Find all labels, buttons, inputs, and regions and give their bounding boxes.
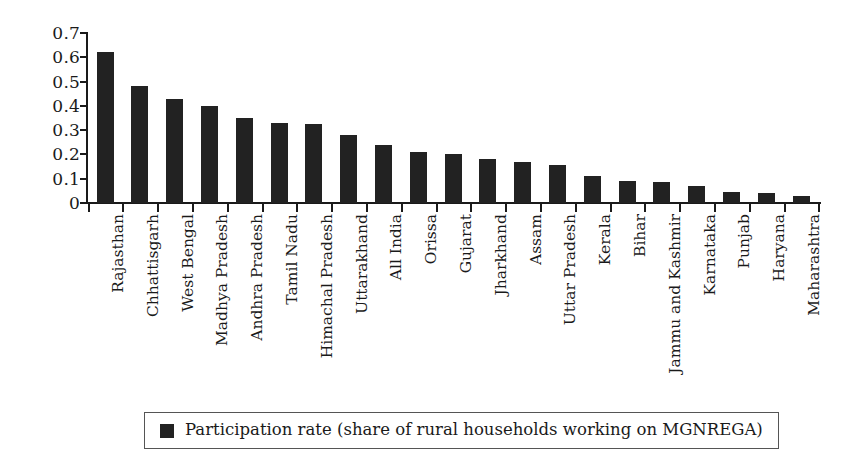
- x-tick-mark: [227, 204, 229, 212]
- x-axis-label: All India: [389, 214, 405, 280]
- bar: [549, 165, 566, 203]
- x-axis-label: Andhra Pradesh: [250, 214, 266, 341]
- bar: [410, 152, 427, 203]
- bar: [201, 106, 218, 203]
- y-tick-mark: [80, 129, 87, 131]
- y-tick-label: 0.2: [52, 146, 80, 163]
- x-axis-label: Bihar: [633, 214, 649, 257]
- y-tick-mark: [80, 105, 87, 107]
- x-axis-label: Chhattisgarh: [146, 214, 162, 317]
- x-axis-label-text: Gujarat: [459, 214, 475, 273]
- x-axis-label: Madhya Pradesh: [215, 214, 231, 346]
- x-tick-mark: [436, 204, 438, 212]
- x-tick-mark: [88, 204, 90, 212]
- x-axis-label-text: Karnataka: [703, 214, 719, 296]
- bar: [445, 154, 462, 203]
- x-axis-label-text: Kerala: [598, 214, 614, 265]
- bar: [514, 162, 531, 203]
- y-tick-mark: [80, 153, 87, 155]
- x-tick-mark: [331, 204, 333, 212]
- bar: [688, 186, 705, 203]
- x-tick-mark: [714, 204, 716, 212]
- x-tick-mark: [575, 204, 577, 212]
- x-axis-label-text: Uttar Pradesh: [563, 214, 579, 325]
- x-axis-label-text: Madhya Pradesh: [215, 214, 231, 346]
- x-axis-label: Himachal Pradesh: [320, 214, 336, 358]
- x-tick-mark: [296, 204, 298, 212]
- bar: [653, 182, 670, 203]
- x-axis-label-text: Maharashtra: [807, 214, 823, 316]
- x-axis-label-text: Orissa: [424, 214, 440, 264]
- x-tick-mark: [610, 204, 612, 212]
- x-axis-label-text: Jharkhand: [494, 214, 510, 295]
- x-axis-label-text: West Bengal: [181, 214, 197, 312]
- x-tick-mark: [540, 204, 542, 212]
- x-axis-label: Punjab: [737, 214, 753, 268]
- x-axis-label-text: All India: [389, 214, 405, 280]
- x-axis-label-text: Bihar: [633, 214, 649, 257]
- bar: [723, 192, 740, 203]
- x-tick-mark: [470, 204, 472, 212]
- x-axis-label: Orissa: [424, 214, 440, 264]
- x-axis-label-text: Tamil Nadu: [285, 214, 301, 305]
- y-tick-mark: [80, 202, 87, 204]
- bar: [271, 123, 288, 203]
- x-tick-mark: [749, 204, 751, 212]
- y-tick-label: 0.6: [52, 49, 80, 66]
- bar: [236, 118, 253, 203]
- x-axis-label-text: Jammu and Kashmir: [668, 214, 684, 374]
- y-tick-mark: [80, 178, 87, 180]
- bar: [758, 193, 775, 203]
- x-tick-mark: [505, 204, 507, 212]
- x-axis-label: Karnataka: [703, 214, 719, 296]
- x-axis-label-text: Andhra Pradesh: [250, 214, 266, 341]
- x-axis-label-text: Chhattisgarh: [146, 214, 162, 317]
- x-tick-mark: [192, 204, 194, 212]
- x-axis-label: Maharashtra: [807, 214, 823, 316]
- bar: [479, 159, 496, 203]
- x-axis-label: Uttarakhand: [355, 214, 371, 314]
- x-axis-label: West Bengal: [181, 214, 197, 312]
- x-tick-mark: [644, 204, 646, 212]
- y-tick-label: 0.4: [52, 97, 80, 114]
- bar: [97, 52, 114, 203]
- x-axis-label: Rajasthan: [111, 214, 127, 293]
- bar: [375, 145, 392, 203]
- x-axis-label: Uttar Pradesh: [563, 214, 579, 325]
- x-axis-label: Kerala: [598, 214, 614, 265]
- y-tick-label: 0: [69, 195, 80, 212]
- x-tick-mark: [366, 204, 368, 212]
- y-tick-label: 0.3: [52, 122, 80, 139]
- chart-legend: Participation rate (share of rural house…: [144, 412, 779, 449]
- x-axis-label-text: Haryana: [772, 214, 788, 281]
- y-tick-mark: [80, 32, 87, 34]
- x-tick-mark: [122, 204, 124, 212]
- x-axis-label-text: Himachal Pradesh: [320, 214, 336, 358]
- bar-chart: 00.10.20.30.40.50.60.7 RajasthanChhattis…: [0, 0, 861, 471]
- bar: [619, 181, 636, 203]
- y-tick-label: 0.1: [52, 170, 80, 187]
- x-axis-label: Haryana: [772, 214, 788, 281]
- y-tick-mark: [80, 81, 87, 83]
- x-tick-mark: [679, 204, 681, 212]
- bar: [131, 86, 148, 203]
- x-tick-mark: [157, 204, 159, 212]
- bar: [305, 124, 322, 203]
- y-tick-mark: [80, 56, 87, 58]
- y-tick-label: 0.5: [52, 73, 80, 90]
- x-axis-label: Tamil Nadu: [285, 214, 301, 305]
- bar: [584, 176, 601, 203]
- legend-swatch-icon: [160, 424, 174, 438]
- x-axis-label: Assam: [529, 214, 545, 265]
- bar: [166, 99, 183, 203]
- x-axis-label: Gujarat: [459, 214, 475, 273]
- x-axis-label: Jammu and Kashmir: [668, 214, 684, 374]
- x-axis-label-text: Uttarakhand: [355, 214, 371, 314]
- x-tick-mark: [401, 204, 403, 212]
- x-axis-label: Jharkhand: [494, 214, 510, 295]
- x-axis-label-text: Punjab: [737, 214, 753, 268]
- bar: [793, 196, 810, 203]
- x-tick-mark: [262, 204, 264, 212]
- plot-area: [88, 33, 820, 203]
- bar: [340, 135, 357, 203]
